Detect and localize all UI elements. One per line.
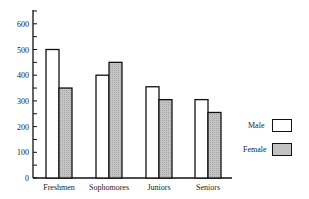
x-tick-label: Juniors bbox=[147, 183, 170, 192]
bar-chart: 0100200300400500600 FreshmenSophomoresJu… bbox=[0, 0, 309, 199]
legend-male-swatch bbox=[272, 119, 292, 132]
bar-male bbox=[195, 100, 208, 178]
legend-female-label: Female bbox=[243, 145, 267, 154]
bar-female bbox=[208, 112, 221, 178]
bar-female bbox=[109, 62, 122, 178]
y-tick-label: 0 bbox=[25, 174, 29, 183]
bar-female bbox=[59, 88, 72, 178]
y-tick-label: 500 bbox=[17, 46, 29, 55]
x-tick-label: Seniors bbox=[196, 183, 220, 192]
bar-male bbox=[146, 87, 159, 178]
y-tick-label: 400 bbox=[17, 71, 29, 80]
legend-female-swatch bbox=[272, 143, 292, 156]
bar-male bbox=[46, 50, 59, 179]
x-tick-label: Sophomores bbox=[89, 183, 129, 192]
bars bbox=[46, 50, 221, 179]
x-axis-labels: FreshmenSophomoresJuniorsSeniors bbox=[43, 183, 220, 192]
legend-male-label: Male bbox=[248, 121, 264, 130]
y-tick-label: 600 bbox=[17, 20, 29, 29]
x-tick-label: Freshmen bbox=[43, 183, 75, 192]
y-tick-label: 100 bbox=[17, 148, 29, 157]
bar-female bbox=[159, 100, 172, 178]
bar-male bbox=[96, 75, 109, 178]
y-tick-label: 300 bbox=[17, 97, 29, 106]
y-tick-label: 200 bbox=[17, 123, 29, 132]
